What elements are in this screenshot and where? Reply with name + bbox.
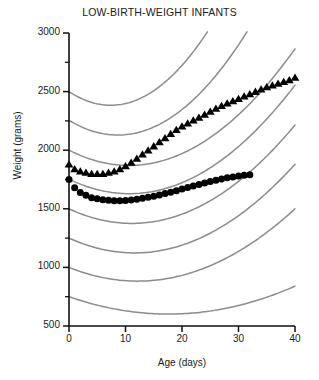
percentile-curve-4 <box>69 85 295 194</box>
y-axis-tick-labels: 50010001500200025003000 <box>16 0 60 380</box>
y-tick-label-1500: 1500 <box>20 202 60 213</box>
y-tick-label-1000: 1000 <box>20 260 60 271</box>
data-point-circle <box>246 171 253 178</box>
y-tick-label-500: 500 <box>20 319 60 330</box>
y-tick-label-2500: 2500 <box>20 85 60 96</box>
percentile-curve-2 <box>69 32 247 135</box>
percentile-curve-6 <box>69 164 295 253</box>
data-point-circle <box>66 176 73 183</box>
x-tick-label-0: 0 <box>54 333 84 344</box>
y-tick-label-3000: 3000 <box>20 26 60 37</box>
data-point-triangle <box>291 74 300 81</box>
x-tick-label-40: 40 <box>280 333 310 344</box>
data-point-triangle <box>65 160 74 167</box>
percentile-curve-1 <box>69 32 207 105</box>
x-tick-label-20: 20 <box>167 333 197 344</box>
chart-figure: LOW-BIRTH-WEIGHT INFANTS Weight (grams) … <box>0 0 319 380</box>
data-point-circle <box>71 184 78 191</box>
x-axis-label: Age (days) <box>69 357 295 368</box>
x-tick-label-10: 10 <box>111 333 141 344</box>
y-tick-label-2000: 2000 <box>20 143 60 154</box>
x-tick-label-30: 30 <box>224 333 254 344</box>
percentile-curve-8 <box>69 286 295 314</box>
